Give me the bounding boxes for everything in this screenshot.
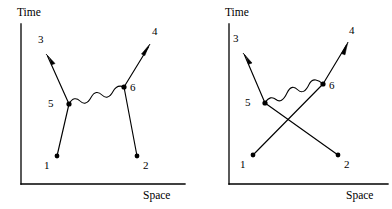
panel-exchange-diagram: Time Space 3 4 5 6 1 (196, 0, 392, 209)
vertex-label-6: 6 (130, 82, 136, 93)
panel-direct-diagram: Time Space 3 4 5 6 1 (0, 0, 196, 209)
fermion-line-2-to-6 (124, 87, 137, 156)
point-label-3: 3 (38, 34, 44, 45)
vertex-label-5: 5 (245, 97, 251, 108)
endpoint-dot-1 (251, 153, 256, 158)
photon-propagator (69, 86, 124, 104)
fermion-line-1-to-5 (57, 104, 69, 156)
vertex-label-6: 6 (329, 80, 335, 91)
point-label-3: 3 (233, 33, 239, 44)
vertex-label-5: 5 (48, 98, 54, 109)
arrowhead-4-icon (142, 44, 151, 56)
endpoint-dot-2 (336, 153, 341, 158)
point-label-2: 2 (344, 159, 350, 170)
vertex-dot-5 (66, 101, 71, 106)
vertex-dot-6 (320, 81, 325, 86)
vertex-dot-6 (121, 84, 126, 89)
feynman-diagram-figure: Time Space 3 4 5 6 1 (0, 0, 392, 209)
endpoint-dot-1 (55, 154, 60, 159)
vertex-dot-5 (262, 100, 267, 105)
point-label-1: 1 (240, 159, 246, 170)
fermion-line-2-to-5 (265, 103, 338, 155)
endpoint-dot-2 (135, 154, 140, 159)
diagram-canvas-right (196, 0, 392, 209)
point-label-2: 2 (143, 160, 149, 171)
diagram-canvas-left (0, 0, 196, 209)
point-label-4: 4 (152, 26, 158, 37)
point-label-1: 1 (44, 160, 50, 171)
photon-propagator (265, 80, 323, 103)
arrowhead-4-icon (342, 42, 349, 55)
point-label-4: 4 (349, 25, 355, 36)
